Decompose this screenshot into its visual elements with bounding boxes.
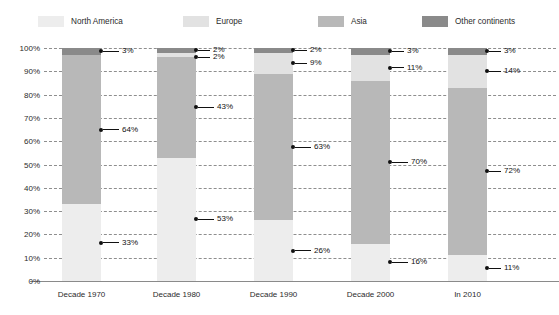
callout-leader-line (489, 268, 501, 269)
legend-item-label: Europe (216, 16, 242, 27)
x-axis-tick-label: Decade 1970 (58, 290, 106, 299)
bar-group[interactable] (254, 48, 293, 281)
data-label-value: 11% (504, 263, 519, 273)
callout-leader-line (198, 107, 214, 108)
data-label-value: 2% (213, 52, 225, 62)
x-axis-tick-label: Decade 1990 (250, 290, 298, 299)
bar-segment-other-continents[interactable] (448, 48, 487, 55)
x-axis-tick-label: In 2010 (454, 290, 481, 299)
bar-segment-other-continents[interactable] (157, 48, 196, 53)
y-axis-tick-label: 20% (6, 230, 40, 239)
bar-segment-north-america[interactable] (62, 204, 101, 281)
data-label-value: 63% (314, 142, 330, 152)
chart-plot-area: 0%10%20%30%40%50%60%70%80%90%100%Decade … (0, 36, 559, 315)
chart-root: North AmericaEuropeAsiaOther continents … (0, 0, 559, 315)
bar-segment-north-america[interactable] (157, 158, 196, 281)
data-label-callout: 26% (291, 246, 330, 256)
callout-leader-line (103, 129, 119, 130)
data-label-value: 43% (217, 102, 233, 112)
x-axis-tick-label: Decade 2000 (347, 290, 395, 299)
bar-segment-asia[interactable] (157, 57, 196, 157)
callout-leader-line (295, 63, 307, 64)
legend-item-label: North America (71, 16, 123, 27)
y-axis-tick-label: 70% (6, 113, 40, 122)
data-label-callout: 2% (291, 45, 322, 55)
bar-group[interactable] (448, 48, 487, 281)
bar-group[interactable] (157, 48, 196, 281)
legend-swatch-icon (38, 16, 64, 27)
data-label-callout: 70% (388, 157, 427, 167)
y-axis-tick-label: 90% (6, 67, 40, 76)
data-label-value: 16% (411, 257, 427, 267)
y-axis-tick-label: 30% (6, 207, 40, 216)
bar-segment-asia[interactable] (351, 81, 390, 244)
y-axis-tick-label: 80% (6, 90, 40, 99)
data-label-callout: 64% (99, 125, 138, 135)
callout-leader-line (103, 242, 119, 243)
callout-leader-line (489, 51, 501, 52)
callout-leader-line (198, 50, 210, 51)
data-label-value: 33% (122, 238, 138, 248)
data-label-callout: 72% (485, 166, 520, 176)
data-label-callout: 11% (485, 263, 519, 273)
legend-swatch-icon (183, 16, 209, 27)
y-axis-tick-label: 0% (6, 277, 40, 286)
callout-leader-line (295, 147, 311, 148)
callout-leader-line (392, 262, 408, 263)
callout-leader-line (392, 51, 404, 52)
y-axis-tick-label: 100% (6, 44, 40, 53)
legend-swatch-icon (422, 16, 448, 27)
legend-item-label: Asia (351, 16, 367, 27)
callout-leader-line (295, 50, 307, 51)
chart-legend: North AmericaEuropeAsiaOther continents (0, 0, 559, 36)
x-axis-tick-label: Decade 1980 (153, 290, 201, 299)
bar-segment-north-america[interactable] (351, 244, 390, 281)
callout-leader-line (198, 57, 210, 58)
bar-segment-other-continents[interactable] (254, 48, 293, 53)
data-label-callout: 9% (291, 58, 322, 68)
legend-item-other-continents[interactable]: Other continents (422, 14, 515, 28)
data-label-callout: 2% (194, 52, 225, 62)
bar-segment-other-continents[interactable] (62, 48, 101, 55)
bar-group[interactable] (351, 48, 390, 281)
data-label-callout: 53% (194, 214, 233, 224)
callout-leader-line (103, 51, 119, 52)
bar-group[interactable] (62, 48, 101, 281)
legend-swatch-icon (318, 16, 344, 27)
data-label-callout: 16% (388, 257, 427, 267)
bar-segment-north-america[interactable] (254, 220, 293, 281)
y-axis-tick-label: 60% (6, 137, 40, 146)
data-label-callout: 63% (291, 142, 330, 152)
bar-segment-europe[interactable] (448, 55, 487, 88)
bar-segment-asia[interactable] (448, 88, 487, 256)
data-label-value: 53% (217, 214, 233, 224)
data-label-value: 9% (310, 58, 322, 68)
bar-segment-europe[interactable] (351, 55, 390, 81)
bar-segment-asia[interactable] (254, 74, 293, 221)
legend-item-asia[interactable]: Asia (318, 14, 367, 28)
legend-item-label: Other continents (455, 16, 515, 27)
callout-leader-line (392, 67, 404, 68)
legend-item-europe[interactable]: Europe (183, 14, 242, 28)
y-axis-tick-label: 50% (6, 160, 40, 169)
bar-segment-europe[interactable] (254, 53, 293, 74)
data-label-callout: 33% (99, 238, 138, 248)
callout-leader-line (198, 219, 214, 220)
y-axis-tick-label: 40% (6, 183, 40, 192)
legend-item-north-america[interactable]: North America (38, 14, 123, 28)
callout-leader-line (392, 162, 408, 163)
bar-segment-europe[interactable] (157, 53, 196, 58)
data-label-callout: 2% (194, 45, 225, 55)
bar-segment-other-continents[interactable] (351, 48, 390, 55)
data-label-value: 26% (314, 246, 330, 256)
y-axis-tick-label: 10% (6, 253, 40, 262)
data-label-value: 64% (122, 125, 138, 135)
bar-segment-north-america[interactable] (448, 255, 487, 281)
bar-segment-asia[interactable] (62, 55, 101, 204)
axis-baseline (30, 281, 559, 282)
data-label-value: 70% (411, 157, 427, 167)
data-label-callout: 43% (194, 102, 233, 112)
callout-leader-line (295, 250, 311, 251)
data-label-value: 72% (504, 166, 520, 176)
data-label-value: 2% (213, 45, 225, 55)
